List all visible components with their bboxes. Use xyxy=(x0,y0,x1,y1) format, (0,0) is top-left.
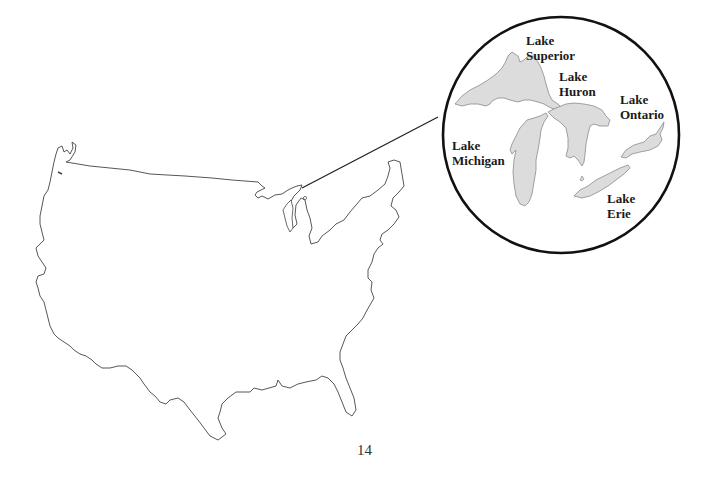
label-lake-erie: Lake Erie xyxy=(607,191,635,221)
us-outline xyxy=(36,142,404,440)
label-line1: Lake xyxy=(452,138,505,153)
label-line2: Erie xyxy=(607,206,635,221)
map-canvas xyxy=(0,0,715,483)
label-lake-ontario: Lake Ontario xyxy=(620,92,664,122)
map-page: Lake Superior Lake Huron Lake Ontario La… xyxy=(0,0,715,483)
label-line2: Superior xyxy=(526,48,575,63)
leader-line xyxy=(302,117,438,188)
label-line2: Ontario xyxy=(620,107,664,122)
label-lake-michigan: Lake Michigan xyxy=(452,138,505,168)
label-line2: Huron xyxy=(559,84,596,99)
label-lake-superior: Lake Superior xyxy=(526,33,575,63)
label-line1: Lake xyxy=(559,69,596,84)
label-line1: Lake xyxy=(607,191,635,206)
label-line1: Lake xyxy=(526,33,575,48)
island-dot xyxy=(303,196,306,199)
label-line2: Michigan xyxy=(452,153,505,168)
page-number: 14 xyxy=(357,442,372,459)
label-lake-huron: Lake Huron xyxy=(559,69,596,99)
label-line1: Lake xyxy=(620,92,664,107)
